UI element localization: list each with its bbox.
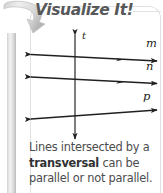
line-m-label: m: [146, 36, 157, 50]
caption-line-3: parallel or not parallel.: [29, 171, 152, 185]
geometry-figure: t m n p: [20, 26, 163, 144]
caption-term-transversal: transversal: [29, 156, 99, 170]
visualize-it-panel: Visualize It! t m n: [0, 0, 163, 193]
line-p: p: [31, 89, 157, 119]
line-n-label: n: [146, 59, 153, 73]
caption: Lines intersected by a transversal can b…: [29, 140, 157, 187]
line-t: t: [75, 30, 87, 139]
title-rule: [133, 11, 161, 12]
caption-line-2: can be: [99, 156, 139, 170]
caption-line-1: Lines intersected by a: [29, 140, 149, 154]
line-t-label: t: [82, 30, 87, 41]
line-p-label: p: [143, 89, 151, 103]
page-title: Visualize It!: [35, 1, 133, 19]
pointer-pole: [7, 33, 16, 193]
line-n: n: [31, 59, 157, 84]
line-m: m: [31, 36, 157, 61]
